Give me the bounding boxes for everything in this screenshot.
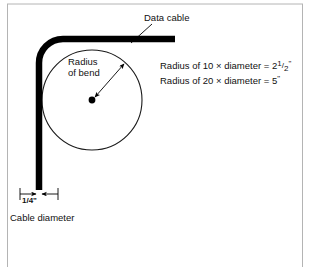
formula-10x-text: Radius of 10 × diameter = [160,60,272,71]
radius-label-line2: of bend [68,67,100,78]
radius-of-bend-label: Radius of bend [68,56,100,78]
formula-block: Radius of 10 × diameter = 21/2" Radius o… [160,60,291,91]
formula-20x-text: Radius of 20 × diameter = [160,75,272,86]
cable-diameter-label: Cable diameter [10,212,74,223]
bend-center-dot [89,97,96,104]
diagram-canvas: Data cable Radius of bend Radius of 10 ×… [0,0,312,267]
formula-20x-unit: " [277,74,280,83]
formula-row-20x: Radius of 20 × diameter = 5" [160,75,291,86]
formula-row-10x: Radius of 10 × diameter = 21/2" [160,60,291,71]
cable-diameter-dimension-value: 1/4" [22,196,37,205]
radius-label-line1: Radius [68,56,100,67]
formula-10x-fraction: 1/2 [277,62,288,70]
formula-10x-unit: " [288,59,291,68]
data-cable-label: Data cable [144,12,189,23]
diagram-graphics [0,0,312,267]
